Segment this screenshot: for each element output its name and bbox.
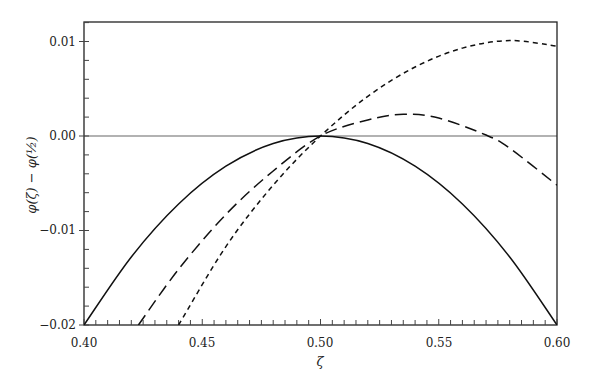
y-tick-label: 0.01: [49, 35, 76, 49]
y-tick-label: −0.01: [39, 223, 76, 237]
curve-long-dashed: [138, 114, 557, 325]
plot-area: [79, 22, 557, 325]
x-tick-label: 0.55: [426, 336, 453, 350]
x-tick-label: 0.60: [544, 336, 571, 350]
curve-short-dashed: [179, 41, 557, 325]
x-tick-label: 0.45: [189, 336, 216, 350]
curve-solid: [84, 136, 557, 325]
y-tick-label: 0.00: [49, 129, 76, 143]
plot-frame: [84, 22, 557, 325]
x-axis-label: ζ: [316, 354, 324, 369]
y-tick-label: −0.02: [39, 318, 76, 332]
x-tick-label: 0.40: [71, 336, 98, 350]
y-axis-label: φ(ζ) − φ(½): [24, 136, 39, 213]
x-tick-label: 0.50: [307, 336, 334, 350]
chart: 0.40 0.45 0.50 0.55 0.60 0.01 0.00 −0.01…: [0, 0, 593, 381]
